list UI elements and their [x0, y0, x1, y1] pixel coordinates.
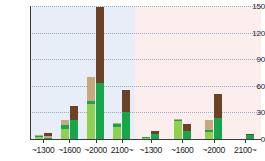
- bar-segment-brown: [122, 90, 130, 111]
- x-label-panel-left-~1300: ~1300: [32, 145, 54, 155]
- x-label-panel-left-2100~: 2100~: [111, 145, 133, 155]
- gridline-150: [30, 6, 261, 7]
- gridline-0: [30, 139, 261, 140]
- bar-segment-green: [151, 134, 159, 139]
- bar-panel-right-~2000-1: [214, 94, 222, 139]
- bar-panel-left-~1300-1: [44, 133, 52, 139]
- bar-segment-light-green: [205, 132, 213, 139]
- bar-segment-green: [183, 131, 191, 139]
- y-tick-120: 120: [239, 28, 265, 37]
- bar-segment-green: [70, 120, 78, 140]
- x-label-panel-right-~2000: ~2000: [203, 145, 225, 155]
- bar-segment-light-green: [61, 129, 69, 139]
- chart-root: 0306090120150 ~1300~1600~20002100~~1300~…: [0, 0, 265, 161]
- bar-panel-left-~1600-1: [70, 106, 78, 139]
- x-tick-panel-right-~1300: [151, 139, 152, 143]
- bar-segment-brown: [96, 7, 104, 83]
- bar-segment-brown: [70, 106, 78, 119]
- plot-panel-right: [135, 6, 261, 139]
- y-tick-60: 60: [239, 81, 265, 90]
- bar-panel-right-~1300-1: [151, 131, 159, 139]
- x-tick-panel-left-~2000: [96, 139, 97, 143]
- bar-segment-green: [96, 83, 104, 139]
- gridline-60: [30, 86, 261, 87]
- bar-segment-light-green: [87, 104, 95, 139]
- bar-panel-right-~1300-0: [142, 137, 150, 139]
- bar-panel-right-2100~-1: [246, 134, 254, 139]
- gridline-120: [30, 33, 261, 34]
- bar-panel-left-~1300-0: [35, 135, 43, 139]
- bar-panel-left-2100~-0: [113, 123, 121, 139]
- x-tick-panel-left-~1600: [69, 139, 70, 143]
- x-label-panel-right-~1300: ~1300: [140, 145, 162, 155]
- bar-panel-right-~2000-0: [205, 120, 213, 140]
- x-tick-panel-right-~1600: [182, 139, 183, 143]
- x-label-panel-right-~1600: ~1600: [171, 145, 193, 155]
- bar-segment-light-green: [174, 121, 182, 139]
- gridline-90: [30, 59, 261, 60]
- y-tick-150: 150: [239, 2, 265, 11]
- x-tick-panel-right-2100~: [245, 139, 246, 143]
- x-label-panel-right-2100~: 2100~: [234, 145, 256, 155]
- bar-segment-tan: [87, 77, 95, 101]
- x-label-panel-left-~1600: ~1600: [58, 145, 80, 155]
- x-tick-panel-left-~1300: [43, 139, 44, 143]
- bar-panel-left-~1600-0: [61, 120, 69, 139]
- bar-panel-left-2100~-1: [122, 90, 130, 139]
- bar-segment-green: [214, 118, 222, 139]
- bar-segment-light-green: [113, 127, 121, 139]
- bar-segment-green: [44, 138, 52, 139]
- y-axis-line: [30, 6, 31, 139]
- y-tick-90: 90: [239, 55, 265, 64]
- plot-panel-left: [30, 6, 135, 139]
- bar-panel-left-~2000-0: [87, 77, 95, 139]
- bar-panel-left-~2000-1: [96, 7, 104, 139]
- x-tick-panel-right-~2000: [214, 139, 215, 143]
- bar-segment-light-green: [142, 138, 150, 139]
- bar-segment-tan: [205, 120, 213, 131]
- bar-segment-green: [122, 112, 130, 139]
- bar-segment-brown: [183, 124, 191, 131]
- bar-segment-brown: [214, 94, 222, 118]
- bar-segment-light-green: [35, 137, 43, 139]
- bar-panel-right-~1600-0: [174, 119, 182, 139]
- x-label-panel-left-~2000: ~2000: [84, 145, 106, 155]
- bar-panel-right-~1600-1: [183, 124, 191, 139]
- x-tick-panel-left-2100~: [122, 139, 123, 143]
- bar-segment-green: [246, 135, 254, 139]
- y-tick-30: 30: [239, 108, 265, 117]
- gridline-30: [30, 112, 261, 113]
